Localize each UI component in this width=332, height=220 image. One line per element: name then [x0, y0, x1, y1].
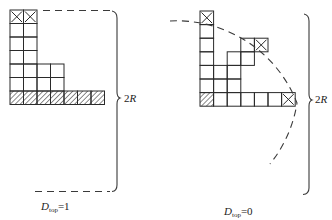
lattice-cell	[24, 37, 38, 51]
left-lattice	[10, 10, 105, 105]
lattice-cell	[200, 52, 214, 66]
hatched-cell	[10, 91, 24, 105]
lattice-cell	[268, 93, 282, 107]
right-caption-symbol: D	[224, 205, 232, 217]
left-caption-subscript: top	[49, 206, 58, 214]
lattice-cell	[51, 64, 65, 78]
lattice-cell	[10, 37, 24, 51]
lattice-cell	[24, 64, 38, 78]
right-lattice	[200, 11, 295, 106]
lattice-cell	[51, 78, 65, 92]
lattice-cell	[227, 93, 241, 107]
lattice-cell	[10, 78, 24, 92]
right-brace-label-symbol: R	[321, 93, 328, 105]
lattice-cell	[241, 93, 255, 107]
left-brace-label: 2R	[124, 92, 136, 104]
right-brace-label: 2R	[315, 93, 327, 105]
lattice-cell	[254, 93, 268, 107]
lattice-cell	[37, 64, 51, 78]
lattice-cell	[24, 78, 38, 92]
lattice-cell	[214, 93, 228, 107]
lattice-cell	[241, 52, 255, 66]
hatched-cell	[24, 91, 38, 105]
left-brace-label-symbol: R	[130, 92, 137, 104]
left-brace	[112, 11, 120, 192]
lattice-cell	[227, 65, 241, 79]
lattice-cell	[10, 51, 24, 65]
hatched-cell	[64, 91, 78, 105]
right-brace	[303, 14, 312, 195]
right-caption-subscript: top	[232, 211, 241, 219]
lattice-cell	[10, 64, 24, 78]
hatched-cell	[78, 91, 92, 105]
hatched-cell	[200, 93, 214, 107]
lattice-cell	[200, 25, 214, 39]
left-caption-symbol: D	[41, 200, 49, 212]
lattice-cell	[200, 38, 214, 52]
hatched-cell	[37, 91, 51, 105]
hatched-cell	[51, 91, 65, 105]
left-caption: Dtop=1	[41, 200, 70, 214]
lattice-cell	[200, 65, 214, 79]
lattice-cell	[10, 24, 24, 38]
left-caption-value: =1	[58, 200, 70, 212]
right-caption: Dtop=0	[224, 205, 253, 219]
lattice-cell	[200, 79, 214, 93]
lattice-cell	[214, 79, 228, 93]
diagram-canvas	[0, 0, 332, 220]
lattice-cell	[24, 24, 38, 38]
lattice-cell	[214, 65, 228, 79]
lattice-cell	[37, 78, 51, 92]
lattice-cell	[227, 52, 241, 66]
right-caption-value: =0	[241, 205, 253, 217]
hatched-cell	[91, 91, 105, 105]
lattice-cell	[227, 79, 241, 93]
lattice-cell	[24, 51, 38, 65]
